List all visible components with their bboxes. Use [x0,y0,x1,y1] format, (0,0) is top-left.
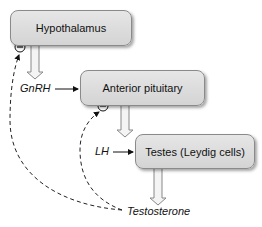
hollow-arrow-testes [150,168,166,205]
hormone-label-lh: LH [95,145,109,157]
node-label: Testes (Leydig cells) [145,146,245,158]
node-anterior-pituitary: Anterior pituitary [80,70,205,106]
hollow-arrow-hypothalamus [27,45,43,79]
hollow-arrow-pituitary [117,105,133,137]
node-label: Anterior pituitary [102,82,182,94]
hormone-label-gnrh: GnRH [20,82,51,94]
node-label: Hypothalamus [36,22,106,34]
node-hypothalamus: Hypothalamus [10,10,132,46]
feedback-curve-pituitary [80,112,122,210]
hormone-label-testosterone: Testosterone [127,205,190,217]
node-testes: Testes (Leydig cells) [135,134,255,169]
